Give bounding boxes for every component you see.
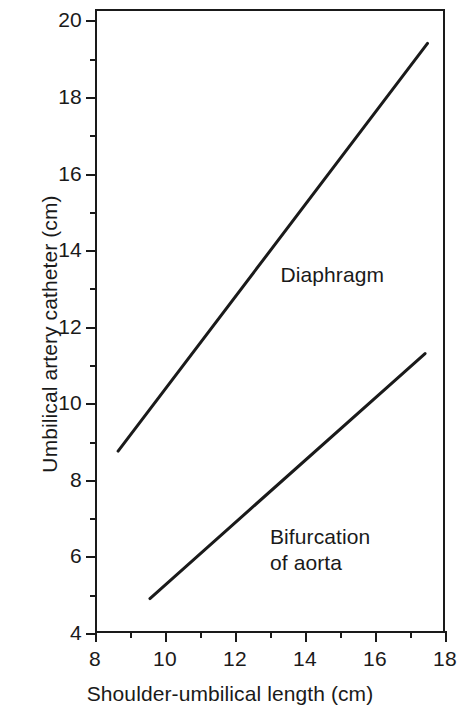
y-tick-label-18: 18 xyxy=(58,86,82,107)
x-tick-12 xyxy=(235,631,237,642)
bifurcation-label-line1: Bifurcation xyxy=(270,525,370,548)
y-tick-label-8: 8 xyxy=(70,469,82,490)
y-tick-10 xyxy=(86,403,97,405)
y-minor-tick xyxy=(90,595,97,597)
x-minor-tick xyxy=(270,631,272,638)
chart-figure: 468101214161820 81012141618 Diaphragm Bi… xyxy=(0,0,460,715)
x-tick-18 xyxy=(445,631,447,642)
y-tick-label-4: 4 xyxy=(70,622,82,643)
y-tick-14 xyxy=(86,250,97,252)
x-minor-tick xyxy=(130,631,132,638)
y-minor-tick xyxy=(90,59,97,61)
x-minor-tick xyxy=(200,631,202,638)
x-minor-tick xyxy=(340,631,342,638)
x-tick-16 xyxy=(375,631,377,642)
y-minor-tick xyxy=(90,212,97,214)
x-tick-8 xyxy=(95,631,97,642)
x-tick-14 xyxy=(305,631,307,642)
x-minor-tick xyxy=(410,631,412,638)
x-axis-title: Shoulder-umbilical length (cm) xyxy=(0,682,460,706)
y-minor-tick xyxy=(90,442,97,444)
y-tick-label-20: 20 xyxy=(58,9,82,30)
series-line-diaphragm xyxy=(118,43,427,451)
series-label-diaphragm: Diaphragm xyxy=(281,262,385,288)
x-tick-10 xyxy=(165,631,167,642)
x-tick-label-14: 14 xyxy=(293,648,317,669)
x-tick-label-18: 18 xyxy=(433,648,457,669)
y-tick-20 xyxy=(86,20,97,22)
y-minor-tick xyxy=(90,288,97,290)
series-label-bifurcation-of-aorta: Bifurcationof aorta xyxy=(270,524,370,576)
y-tick-8 xyxy=(86,480,97,482)
y-tick-16 xyxy=(86,174,97,176)
y-axis-title: Umbilical artery catheter (cm) xyxy=(38,124,62,544)
x-tick-label-8: 8 xyxy=(89,648,101,669)
y-tick-6 xyxy=(86,556,97,558)
x-tick-label-12: 12 xyxy=(223,648,247,669)
y-tick-label-6: 6 xyxy=(70,545,82,566)
y-minor-tick xyxy=(90,518,97,520)
x-tick-label-16: 16 xyxy=(363,648,387,669)
y-minor-tick xyxy=(90,365,97,367)
x-tick-label-10: 10 xyxy=(153,648,177,669)
y-minor-tick xyxy=(90,135,97,137)
bifurcation-label-line2: of aorta xyxy=(270,551,342,574)
y-tick-12 xyxy=(86,327,97,329)
y-tick-18 xyxy=(86,97,97,99)
